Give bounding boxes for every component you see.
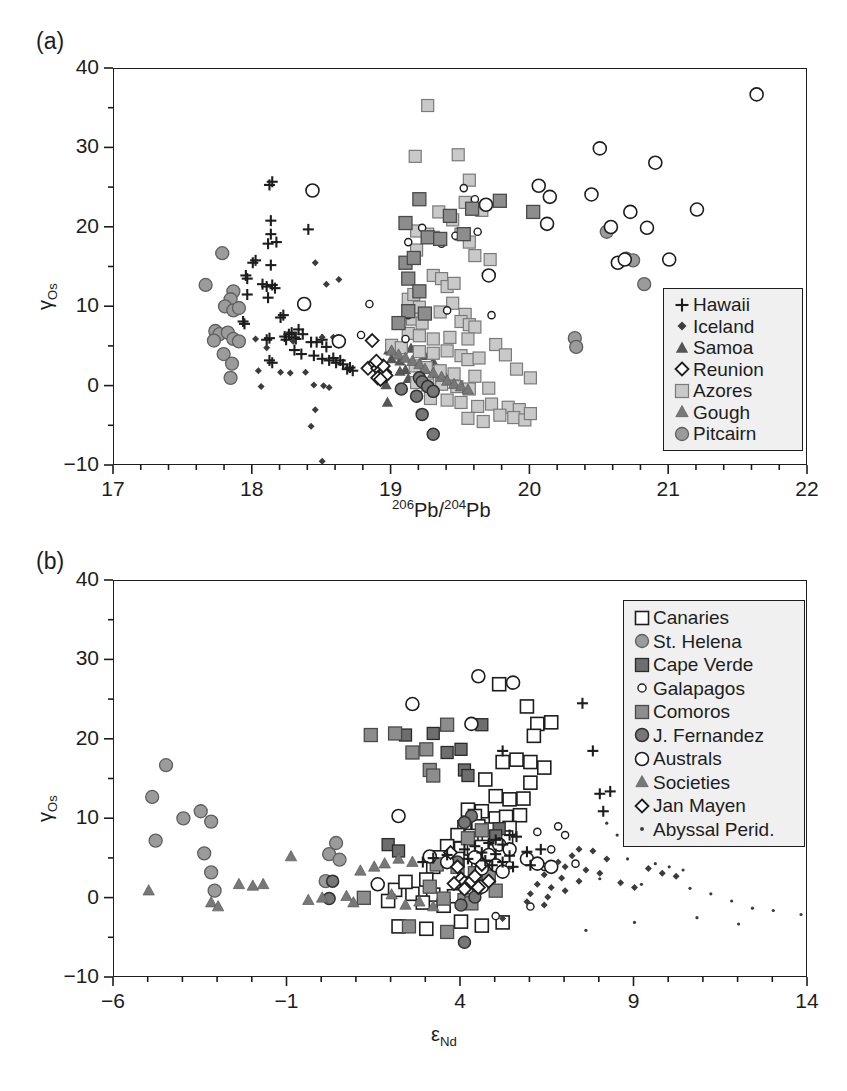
circle-gray-icon — [671, 424, 693, 444]
diamond-filled-icon — [671, 316, 693, 336]
legend-item-azores[interactable]: Azores — [671, 380, 793, 402]
x-tick--1: −1 — [247, 989, 327, 1013]
legend-item-australs[interactable]: Australs — [631, 747, 795, 771]
plus-icon — [671, 295, 693, 315]
triangle-gray-icon — [631, 772, 653, 792]
diamond-open-icon — [671, 359, 693, 379]
legend-item-samoa[interactable]: Samoa — [671, 337, 793, 359]
x-tick-20: 20 — [489, 477, 569, 501]
legend-label: J. Fernandez — [653, 726, 764, 745]
y-tick-40: 40 — [0, 55, 99, 79]
x-tick-9: 9 — [594, 989, 674, 1013]
legend-label: Societies — [653, 773, 730, 792]
legend-item-galapagos[interactable]: Galapagos — [631, 677, 795, 701]
legend-item-canaries[interactable]: Canaries — [631, 606, 795, 630]
legend-item-gough[interactable]: Gough — [671, 402, 793, 424]
panel-a: (a) −10010203040 171819202122 γOs 206Pb/… — [0, 0, 847, 545]
legend-label: Samoa — [693, 338, 753, 357]
figure-root: (a) −10010203040 171819202122 γOs 206Pb/… — [0, 0, 847, 1091]
legend-label: Cape Verde — [653, 655, 753, 674]
x-tick-14: 14 — [767, 989, 847, 1013]
y-tick-40: 40 — [0, 567, 99, 591]
legend-label: Pitcairn — [693, 424, 756, 443]
circle-dark-icon — [631, 725, 653, 745]
legend-label: Comoros — [653, 702, 730, 721]
legend-b: CanariesSt. HelenaCape VerdeGalapagosCom… — [623, 600, 805, 847]
legend-item-jan-mayen[interactable]: Jan Mayen — [631, 794, 795, 818]
square-open-icon — [631, 608, 653, 628]
y-tick--10: −10 — [0, 964, 99, 988]
legend-item-iceland[interactable]: Iceland — [671, 316, 793, 338]
dot-icon — [631, 819, 653, 839]
legend-item-abyssal-perid-[interactable]: Abyssal Perid. — [631, 818, 795, 842]
legend-label: Reunion — [693, 360, 764, 379]
y-tick-20: 20 — [0, 214, 99, 238]
circle-open-small-icon — [631, 678, 653, 698]
y-tick-0: 0 — [0, 373, 99, 397]
y-axis-title-a: γOs — [34, 283, 60, 310]
x-tick-17: 17 — [73, 477, 153, 501]
y-tick--10: −10 — [0, 452, 99, 476]
legend-label: St. Helena — [653, 632, 742, 651]
x-axis-title-a: 206Pb/204Pb — [392, 497, 491, 522]
legend-item-reunion[interactable]: Reunion — [671, 359, 793, 381]
legend-item-st-helena[interactable]: St. Helena — [631, 630, 795, 654]
square-gray-icon — [631, 702, 653, 722]
legend-label: Azores — [693, 381, 752, 400]
triangle-filled-icon — [671, 338, 693, 358]
y-tick-20: 20 — [0, 726, 99, 750]
triangle-gray-icon — [671, 402, 693, 422]
x-tick-18: 18 — [212, 477, 292, 501]
circle-open-icon — [631, 749, 653, 769]
legend-label: Iceland — [693, 317, 754, 336]
legend-label: Abyssal Perid. — [653, 820, 774, 839]
circle-gray-icon — [631, 631, 653, 651]
legend-item-cape-verde[interactable]: Cape Verde — [631, 653, 795, 677]
legend-label: Galapagos — [653, 679, 745, 698]
x-tick--6: −6 — [73, 989, 153, 1013]
axis-ticks-a — [0, 0, 847, 545]
x-tick-21: 21 — [628, 477, 708, 501]
x-axis-title-b: εNd — [431, 1023, 457, 1049]
y-tick-30: 30 — [0, 134, 99, 158]
y-tick-30: 30 — [0, 646, 99, 670]
legend-item-j-fernandez[interactable]: J. Fernandez — [631, 724, 795, 748]
y-tick-0: 0 — [0, 885, 99, 909]
legend-a: HawaiiIcelandSamoaReunionAzoresGoughPitc… — [663, 288, 803, 451]
legend-label: Canaries — [653, 608, 729, 627]
legend-label: Gough — [693, 403, 750, 422]
square-dark-icon — [631, 655, 653, 675]
legend-item-hawaii[interactable]: Hawaii — [671, 294, 793, 316]
legend-label: Hawaii — [693, 295, 750, 314]
diamond-open-icon — [631, 796, 653, 816]
x-tick-4: 4 — [420, 989, 500, 1013]
legend-item-comoros[interactable]: Comoros — [631, 700, 795, 724]
legend-label: Australs — [653, 749, 722, 768]
x-tick-22: 22 — [767, 477, 847, 501]
legend-item-societies[interactable]: Societies — [631, 771, 795, 795]
y-axis-title-b: γOs — [34, 795, 60, 822]
square-light-icon — [671, 381, 693, 401]
panel-b: (b) −10010203040 −6−14914 γOs εNd Canari… — [0, 530, 847, 1090]
legend-label: Jan Mayen — [653, 796, 746, 815]
legend-item-pitcairn[interactable]: Pitcairn — [671, 423, 793, 445]
